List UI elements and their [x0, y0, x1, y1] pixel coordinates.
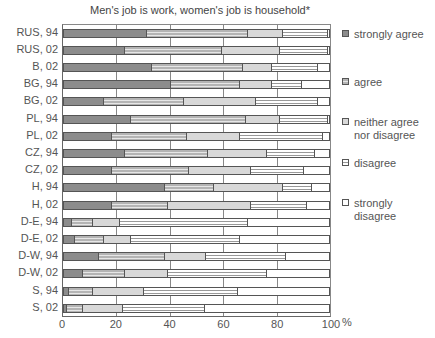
category-label: RUS, 94 [16, 26, 58, 38]
bar-segment [239, 132, 322, 141]
category-label: PL, 02 [26, 129, 58, 141]
legend-label: disagree [354, 157, 396, 170]
category-label: S, 02 [32, 301, 58, 313]
bar-segment [255, 97, 316, 106]
bar-row [63, 97, 330, 106]
bar-segment [63, 29, 146, 38]
bar-segment [63, 97, 103, 106]
legend-swatch-icon [342, 159, 349, 166]
bar-segment [247, 218, 330, 227]
bar-segment [63, 183, 164, 192]
bar-segment [130, 235, 239, 244]
bar-segment [71, 218, 92, 227]
bar-segment [322, 132, 330, 141]
bar-segment [266, 149, 314, 158]
bar-segment [285, 252, 330, 261]
bar-segment [151, 63, 242, 72]
bar-segment [317, 97, 330, 106]
bar-segment [301, 80, 330, 89]
category-label: B, 02 [32, 60, 58, 72]
x-tick-label: 80 [271, 318, 283, 330]
bar-row [63, 201, 330, 210]
category-label: PL, 94 [26, 112, 58, 124]
bar-segment [82, 304, 122, 313]
category-label: H, 94 [32, 180, 58, 192]
bar-segment [303, 166, 330, 175]
category-label: CZ, 94 [25, 146, 58, 158]
category-label: RUS, 02 [16, 43, 58, 55]
bar-row [63, 269, 330, 278]
bar-segment [279, 46, 327, 55]
category-label: CZ, 02 [25, 163, 58, 175]
bar-segment [92, 218, 119, 227]
bar-segment [250, 201, 306, 210]
bar-segment [250, 166, 303, 175]
bar-segment [63, 235, 74, 244]
bar-row [63, 304, 330, 313]
bar-segment [266, 269, 330, 278]
bar-row [63, 287, 330, 296]
bar-row [63, 149, 330, 158]
bar-segment [63, 46, 124, 55]
bar-segment [205, 252, 285, 261]
x-tick-label: 40 [163, 318, 175, 330]
bar-segment [245, 115, 280, 124]
bar-segment [314, 149, 330, 158]
bar-segment [63, 269, 82, 278]
bar-segment [63, 132, 111, 141]
bar-segment [143, 287, 236, 296]
bar-segment [111, 166, 188, 175]
legend-label: agree [354, 76, 382, 89]
bar-segment [167, 269, 266, 278]
legend-swatch-icon [342, 30, 349, 37]
bar-segment [74, 235, 103, 244]
bar-segment [122, 304, 205, 313]
bar-row [63, 46, 330, 55]
chart-title: Men's job is work, women's job is househ… [0, 4, 400, 16]
bar-row [63, 235, 330, 244]
category-label: BG, 02 [24, 94, 58, 106]
bar-segment [311, 183, 330, 192]
bar-segment [164, 252, 204, 261]
bar-segment [247, 29, 282, 38]
bar-segment [167, 201, 250, 210]
bar-segment [63, 252, 98, 261]
legend-label: strongly agree [354, 28, 424, 41]
bar-segment [327, 46, 330, 55]
bar-segment [98, 252, 165, 261]
bar-segment [63, 218, 71, 227]
bar-segment [63, 115, 130, 124]
bar-row [63, 63, 330, 72]
bar-segment [207, 149, 266, 158]
category-label: BG, 94 [24, 77, 58, 89]
bar-segment [239, 235, 330, 244]
bar-segment [63, 80, 170, 89]
x-tick-label: 60 [217, 318, 229, 330]
legend-label: neither agree nor disagree [354, 116, 419, 142]
bar-row [63, 183, 330, 192]
legend-swatch-icon [342, 118, 349, 125]
bar-segment [306, 201, 330, 210]
legend-label: strongly disagree [354, 197, 396, 223]
bar-segment [82, 269, 125, 278]
bar-segment [183, 97, 255, 106]
category-label: D-W, 02 [18, 266, 58, 278]
bar-segment [237, 287, 330, 296]
x-tick-label: 0 [59, 318, 65, 330]
bar-segment [63, 63, 151, 72]
legend-swatch-icon [342, 199, 349, 206]
bar-segment [271, 63, 316, 72]
bar-segment [63, 149, 124, 158]
bar-row [63, 218, 330, 227]
bar-segment [186, 132, 239, 141]
bar-segment [188, 166, 249, 175]
bar-segment [221, 46, 280, 55]
category-label: D-E, 02 [21, 232, 58, 244]
bar-row [63, 252, 330, 261]
bar-segment [282, 183, 311, 192]
bar-segment [130, 115, 245, 124]
bar-segment [317, 63, 330, 72]
category-label: D-E, 94 [21, 215, 58, 227]
x-tick-label: 20 [110, 318, 122, 330]
bar-segment [146, 29, 247, 38]
